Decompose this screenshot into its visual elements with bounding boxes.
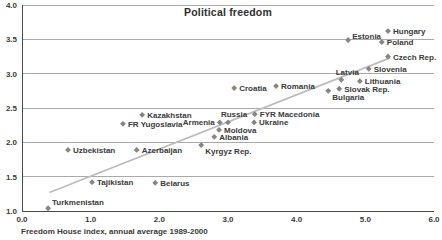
political-freedom-scatter-chart: Political freedom 1.01.52.02.53.03.54.00… bbox=[0, 0, 442, 240]
data-point-estonia bbox=[345, 37, 351, 43]
data-point-slovak-rep bbox=[336, 86, 342, 92]
x-tick-label-0.0: 0.0 bbox=[16, 215, 28, 224]
point-label-lithuania: Lithuania bbox=[365, 77, 401, 86]
data-point-uzbekistan bbox=[65, 147, 71, 153]
data-point-ukraine bbox=[251, 120, 257, 126]
data-point-fr-yugoslavia bbox=[120, 121, 126, 127]
point-label-poland: Poland bbox=[387, 38, 414, 47]
x-axis-caption: Freedom House index, annual average 1989… bbox=[21, 227, 208, 236]
point-label-fyr-macedonia: FYR Macedonia bbox=[260, 110, 320, 119]
data-point-lithuania bbox=[357, 78, 363, 84]
point-label-croatia: Croatia bbox=[239, 84, 267, 93]
point-label-moldova: Moldova bbox=[224, 126, 257, 135]
point-label-turkmenistan: Turkmenistan bbox=[52, 198, 104, 207]
point-label-latvia: Latvia bbox=[336, 68, 360, 77]
data-point-azerbaijan bbox=[134, 147, 140, 153]
point-label-romania: Romania bbox=[281, 82, 315, 91]
point-label-belarus: Belarus bbox=[160, 179, 190, 188]
point-label-armenia: Armenia bbox=[183, 118, 216, 127]
data-point-croatia bbox=[231, 85, 237, 91]
y-tick-label-4.0: 4.0 bbox=[6, 1, 18, 10]
y-tick-label-3.5: 3.5 bbox=[6, 35, 18, 44]
point-label-russia: Russia bbox=[221, 110, 248, 119]
y-tick-label-2.5: 2.5 bbox=[6, 104, 18, 113]
data-point-belarus bbox=[152, 180, 158, 186]
x-tick-label-1.0: 1.0 bbox=[85, 215, 97, 224]
data-point-hungary bbox=[385, 28, 391, 34]
data-point-turkmenistan bbox=[45, 205, 51, 211]
point-label-uzbekistan: Uzbekistan bbox=[73, 146, 115, 155]
point-label-kyrgyz-rep: Kyrgyz Rep. bbox=[205, 147, 251, 156]
data-point-kazakhstan bbox=[139, 112, 145, 118]
x-tick-label-2.0: 2.0 bbox=[154, 215, 166, 224]
x-tick-label-4.0: 4.0 bbox=[291, 215, 303, 224]
point-label-azerbaijan: Azerbaijan bbox=[142, 146, 183, 155]
data-point-romania bbox=[273, 83, 279, 89]
x-tick-label-6.0: 6.0 bbox=[428, 215, 440, 224]
data-point-albania bbox=[211, 134, 217, 140]
point-label-bulgaria: Bulgaria bbox=[332, 93, 365, 102]
point-label-tajikistan: Tajikistan bbox=[97, 178, 133, 187]
data-point-kyrgyz-rep bbox=[198, 142, 204, 148]
scatter-plot-canvas: 1.01.52.02.53.03.54.00.01.02.03.04.05.06… bbox=[0, 0, 442, 240]
data-point-tajikistan bbox=[89, 179, 95, 185]
point-label-slovenia: Slovenia bbox=[374, 65, 407, 74]
x-tick-label-5.0: 5.0 bbox=[360, 215, 372, 224]
y-tick-label-1.5: 1.5 bbox=[6, 173, 18, 182]
y-tick-label-2.0: 2.0 bbox=[6, 138, 18, 147]
point-label-czech-rep: Czech Rep. bbox=[393, 53, 436, 62]
point-label-ukraine: Ukraine bbox=[259, 118, 289, 127]
point-label-fr-yugoslavia: FR Yugoslavia bbox=[128, 120, 183, 129]
data-point-bulgaria bbox=[325, 88, 331, 94]
point-label-estonia: Estonia bbox=[352, 32, 381, 41]
x-tick-label-3.0: 3.0 bbox=[222, 215, 234, 224]
point-label-hungary: Hungary bbox=[393, 27, 426, 36]
y-tick-label-3.0: 3.0 bbox=[6, 70, 18, 79]
